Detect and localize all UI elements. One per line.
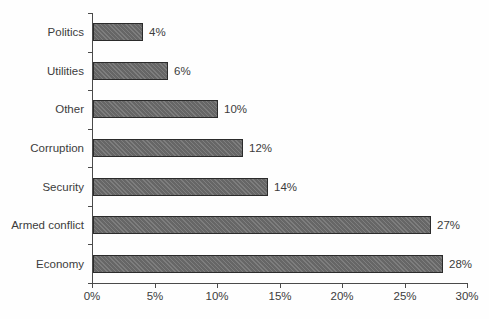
bar-security — [93, 178, 268, 196]
x-axis-tick-25 — [405, 284, 406, 288]
category-label-security: Security — [0, 178, 84, 196]
x-axis-tick-30 — [467, 284, 468, 288]
x-axis-tick-20 — [342, 284, 343, 288]
x-axis-label-5: 5% — [135, 290, 175, 302]
y-axis-tick-2 — [88, 90, 92, 91]
value-label-corruption: 12% — [249, 139, 272, 157]
value-label-other: 10% — [224, 100, 247, 118]
y-axis-tick-5 — [88, 206, 92, 207]
x-axis-label-15: 15% — [260, 290, 300, 302]
y-axis-tick-3 — [88, 129, 92, 130]
x-axis-label-30: 30% — [447, 290, 487, 302]
value-label-security: 14% — [274, 178, 297, 196]
bar-utilities — [93, 62, 168, 80]
y-axis-tick-4 — [88, 167, 92, 168]
x-axis-tick-15 — [280, 284, 281, 288]
bar-politics — [93, 23, 143, 41]
x-axis-tick-0 — [92, 284, 93, 288]
x-axis-label-0: 0% — [72, 290, 112, 302]
category-label-armed-conflict: Armed conflict — [0, 216, 84, 234]
x-axis-label-10: 10% — [197, 290, 237, 302]
category-label-politics: Politics — [0, 23, 84, 41]
category-label-economy: Economy — [0, 255, 84, 273]
y-axis-tick-6 — [88, 244, 92, 245]
horizontal-bar-chart: Politics4%Utilities6%Other10%Corruption1… — [0, 0, 489, 319]
bar-other — [93, 100, 218, 118]
category-label-utilities: Utilities — [0, 62, 84, 80]
bar-armed-conflict — [93, 216, 431, 234]
y-axis-tick-7 — [88, 283, 92, 284]
category-label-corruption: Corruption — [0, 139, 84, 157]
value-label-economy: 28% — [449, 255, 472, 273]
x-axis-tick-10 — [217, 284, 218, 288]
value-label-utilities: 6% — [174, 62, 191, 80]
value-label-armed-conflict: 27% — [437, 216, 460, 234]
y-axis-tick-1 — [88, 52, 92, 53]
bar-economy — [93, 255, 443, 273]
x-axis-tick-5 — [155, 284, 156, 288]
x-axis-label-25: 25% — [385, 290, 425, 302]
bar-corruption — [93, 139, 243, 157]
y-axis-tick-0 — [88, 13, 92, 14]
x-axis-label-20: 20% — [322, 290, 362, 302]
category-label-other: Other — [0, 100, 84, 118]
value-label-politics: 4% — [149, 23, 166, 41]
